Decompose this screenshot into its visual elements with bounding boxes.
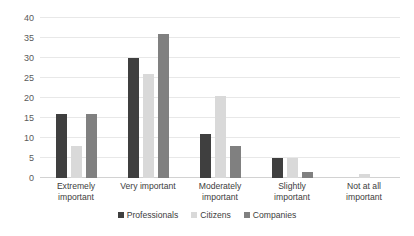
bar <box>128 58 139 178</box>
x-axis-tick-label-line: important <box>40 192 112 203</box>
bar <box>230 146 241 178</box>
legend-label: Citizens <box>200 211 231 220</box>
x-axis: ExtremelyimportantVery importantModerate… <box>40 181 400 209</box>
legend-swatch-icon <box>191 212 197 218</box>
legend-item[interactable]: Professionals <box>118 211 179 220</box>
x-axis-tick-label-line: Moderately <box>184 181 256 192</box>
y-axis-tick-label: 35 <box>24 34 34 43</box>
y-axis-tick-label: 40 <box>24 14 34 23</box>
y-axis: 0510152025303540 <box>0 0 40 178</box>
x-axis-tick-label-line: important <box>328 192 400 203</box>
bar <box>287 158 298 178</box>
y-axis-tick-label: 5 <box>29 154 34 163</box>
y-axis-tick-label: 20 <box>24 94 34 103</box>
bar-group <box>112 18 184 178</box>
x-axis-tick-label-line: Extremely <box>40 181 112 192</box>
bar <box>86 114 97 178</box>
y-axis-tick-label: 15 <box>24 114 34 123</box>
x-axis-tick-label-line: Very important <box>112 181 184 192</box>
legend-swatch-icon <box>244 212 250 218</box>
bar <box>56 114 67 178</box>
bar <box>158 34 169 178</box>
x-axis-tick-label-line: Slightly <box>256 181 328 192</box>
x-axis-tick-label-line: Not at all <box>328 181 400 192</box>
bar <box>71 146 82 178</box>
bar <box>215 96 226 178</box>
bar <box>302 172 313 178</box>
legend-item[interactable]: Companies <box>244 211 296 220</box>
bar-group <box>184 18 256 178</box>
chart-legend: ProfessionalsCitizensCompanies <box>0 211 414 220</box>
bar-group <box>40 18 112 178</box>
legend-item[interactable]: Citizens <box>191 211 231 220</box>
bars-layer <box>40 18 400 178</box>
x-axis-tick-label: Moderatelyimportant <box>184 181 256 203</box>
x-axis-tick-label-line: important <box>184 192 256 203</box>
y-axis-tick-label: 0 <box>29 174 34 183</box>
y-axis-tick-label: 25 <box>24 74 34 83</box>
x-axis-tick-label: Not at allimportant <box>328 181 400 203</box>
bar <box>272 158 283 178</box>
x-axis-tick-label: Very important <box>112 181 184 192</box>
bar-chart: 0510152025303540 ExtremelyimportantVery … <box>0 0 414 236</box>
x-axis-tick-label: Slightlyimportant <box>256 181 328 203</box>
x-axis-tick-label-line: important <box>256 192 328 203</box>
y-axis-tick-label: 10 <box>24 134 34 143</box>
bar <box>143 74 154 178</box>
bar-group <box>328 18 400 178</box>
bar <box>200 134 211 178</box>
legend-swatch-icon <box>118 212 124 218</box>
legend-label: Companies <box>253 211 296 220</box>
y-axis-tick-label: 30 <box>24 54 34 63</box>
bar <box>359 174 370 178</box>
legend-label: Professionals <box>127 211 179 220</box>
bar-group <box>256 18 328 178</box>
x-axis-tick-label: Extremelyimportant <box>40 181 112 203</box>
